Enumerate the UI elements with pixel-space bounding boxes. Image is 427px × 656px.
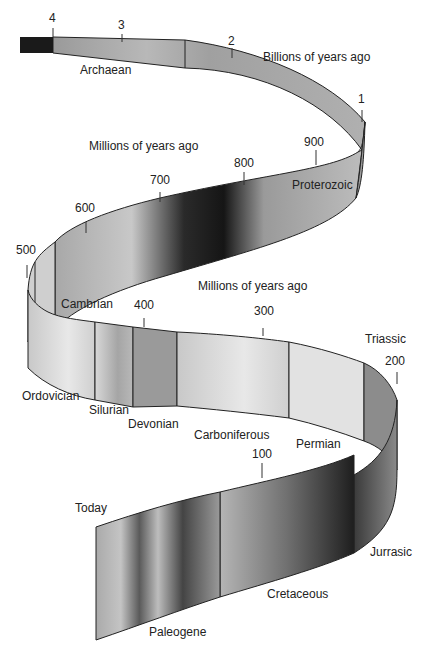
era-label-jurrasic: Jurrasic bbox=[370, 546, 412, 558]
units-millions-upper-label: Millions of years ago bbox=[89, 140, 198, 152]
era-label-paleogene: Paleogene bbox=[149, 626, 206, 638]
today-label: Today bbox=[75, 502, 107, 514]
units-millions-lower-label: Millions of years ago bbox=[198, 280, 307, 292]
era-label-proterozoic: Proterozoic bbox=[292, 179, 353, 191]
era-label-ordovician: Ordovician bbox=[22, 390, 79, 402]
tick-label-700: 700 bbox=[150, 174, 170, 186]
tick-label-500: 500 bbox=[16, 244, 36, 256]
tick-label-600: 600 bbox=[75, 202, 95, 214]
tick-label-2: 2 bbox=[228, 35, 235, 47]
era-label-devonian: Devonian bbox=[128, 418, 179, 430]
era-label-permian: Permian bbox=[296, 438, 341, 450]
era-label-archaean: Archaean bbox=[80, 64, 131, 76]
era-label-triassic: Triassic bbox=[365, 333, 406, 345]
era-label-carboniferous: Carboniferous bbox=[194, 429, 269, 441]
tick-label-900: 900 bbox=[304, 136, 324, 148]
tick-label-400: 400 bbox=[134, 299, 154, 311]
ribbon-paleozoic bbox=[28, 290, 397, 470]
era-label-cretaceous: Cretaceous bbox=[267, 588, 328, 600]
units-billions-label: Billions of years ago bbox=[263, 51, 370, 63]
tick-label-200: 200 bbox=[385, 355, 405, 367]
tick-label-4: 4 bbox=[49, 12, 56, 24]
tick-label-100: 100 bbox=[252, 448, 272, 460]
tick-label-3: 3 bbox=[118, 19, 125, 31]
tick-label-800: 800 bbox=[234, 157, 254, 169]
era-label-silurian: Silurian bbox=[89, 404, 129, 416]
tick-label-1: 1 bbox=[358, 93, 365, 105]
tick-label-300: 300 bbox=[254, 305, 274, 317]
era-label-cambrian: Cambrian bbox=[61, 298, 113, 310]
